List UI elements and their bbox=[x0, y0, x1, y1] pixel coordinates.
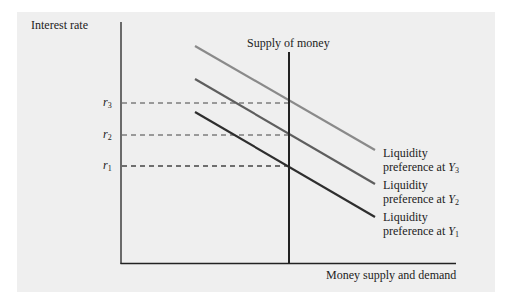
lp-y1-line bbox=[195, 112, 375, 217]
lp-y3-line bbox=[195, 46, 375, 150]
y-axis-label: Interest rate bbox=[31, 18, 88, 32]
legend-lp-y1: Liquidity preference at Y1 bbox=[383, 210, 459, 242]
x-axis-label: Money supply and demand bbox=[326, 268, 456, 282]
r1-label: r1 bbox=[103, 158, 112, 173]
legend-lp-y2: Liquidity preference at Y2 bbox=[383, 178, 459, 210]
supply-label: Supply of money bbox=[247, 36, 330, 50]
r2-label: r2 bbox=[103, 127, 112, 142]
r3-label: r3 bbox=[103, 95, 112, 110]
lp-y2-line bbox=[195, 79, 375, 184]
legend-lp-y3: Liquidity preference at Y3 bbox=[383, 146, 459, 178]
